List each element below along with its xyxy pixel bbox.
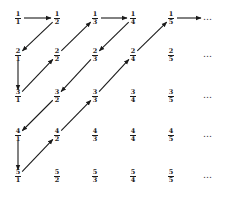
denominator: 4 bbox=[128, 19, 138, 25]
numerator: 5 bbox=[128, 169, 138, 175]
denominator: 1 bbox=[13, 56, 23, 62]
path-arrow bbox=[61, 100, 91, 130]
fraction-1-1: 11 bbox=[13, 11, 23, 25]
path-arrow bbox=[22, 100, 53, 131]
path-arrow bbox=[137, 22, 166, 51]
path-arrow bbox=[61, 22, 90, 51]
ellipsis-row-1: … bbox=[203, 12, 213, 22]
numerator: 3 bbox=[166, 89, 176, 95]
fraction-4-2: 42 bbox=[52, 128, 62, 142]
denominator: 5 bbox=[166, 97, 176, 103]
denominator: 4 bbox=[128, 136, 138, 142]
denominator: 5 bbox=[166, 136, 176, 142]
denominator: 3 bbox=[90, 97, 100, 103]
numerator: 2 bbox=[90, 48, 100, 54]
fraction-5-4: 54 bbox=[128, 169, 138, 183]
fraction-2-5: 25 bbox=[166, 48, 176, 62]
fraction-5-3: 53 bbox=[90, 169, 100, 183]
fraction-2-4: 24 bbox=[128, 48, 138, 62]
path-arrow bbox=[99, 59, 129, 91]
fraction-1-5: 15 bbox=[166, 11, 176, 25]
numerator: 2 bbox=[166, 48, 176, 54]
denominator: 2 bbox=[52, 136, 62, 142]
numerator: 5 bbox=[90, 169, 100, 175]
numerator: 1 bbox=[52, 11, 62, 17]
numerator: 3 bbox=[128, 89, 138, 95]
fraction-4-3: 43 bbox=[90, 128, 100, 142]
denominator: 4 bbox=[128, 56, 138, 62]
denominator: 3 bbox=[90, 136, 100, 142]
denominator: 3 bbox=[90, 177, 100, 183]
fraction-1-3: 13 bbox=[90, 11, 100, 25]
fraction-5-1: 51 bbox=[13, 169, 23, 183]
fraction-4-5: 45 bbox=[166, 128, 176, 142]
denominator: 5 bbox=[166, 177, 176, 183]
denominator: 4 bbox=[128, 177, 138, 183]
denominator: 1 bbox=[13, 97, 23, 103]
fraction-3-3: 33 bbox=[90, 89, 100, 103]
numerator: 2 bbox=[13, 48, 23, 54]
numerator: 1 bbox=[90, 11, 100, 17]
enumeration-path-arrows bbox=[0, 0, 230, 213]
ellipsis-row-5: … bbox=[203, 170, 213, 180]
numerator: 4 bbox=[52, 128, 62, 134]
numerator: 3 bbox=[13, 89, 23, 95]
fraction-4-1: 41 bbox=[13, 128, 23, 142]
path-arrow bbox=[99, 22, 128, 51]
ellipsis-row-2: … bbox=[203, 49, 213, 59]
path-arrow bbox=[22, 22, 52, 51]
ellipsis-row-3: … bbox=[203, 90, 213, 100]
numerator: 4 bbox=[166, 128, 176, 134]
denominator: 2 bbox=[52, 56, 62, 62]
fraction-1-2: 12 bbox=[52, 11, 62, 25]
numerator: 5 bbox=[52, 169, 62, 175]
numerator: 5 bbox=[166, 169, 176, 175]
numerator: 1 bbox=[13, 11, 23, 17]
denominator: 4 bbox=[128, 97, 138, 103]
numerator: 3 bbox=[90, 89, 100, 95]
denominator: 2 bbox=[52, 177, 62, 183]
fraction-2-3: 23 bbox=[90, 48, 100, 62]
denominator: 1 bbox=[13, 19, 23, 25]
path-arrow bbox=[22, 59, 53, 91]
fraction-3-4: 34 bbox=[128, 89, 138, 103]
fraction-3-1: 31 bbox=[13, 89, 23, 103]
fraction-3-5: 35 bbox=[166, 89, 176, 103]
fraction-2-2: 22 bbox=[52, 48, 62, 62]
denominator: 3 bbox=[90, 56, 100, 62]
fraction-1-4: 14 bbox=[128, 11, 138, 25]
numerator: 1 bbox=[166, 11, 176, 17]
denominator: 3 bbox=[90, 19, 100, 25]
numerator: 4 bbox=[13, 128, 23, 134]
fraction-2-1: 21 bbox=[13, 48, 23, 62]
denominator: 5 bbox=[166, 19, 176, 25]
denominator: 2 bbox=[52, 19, 62, 25]
fraction-3-2: 32 bbox=[52, 89, 62, 103]
numerator: 2 bbox=[128, 48, 138, 54]
path-arrow bbox=[22, 139, 53, 171]
denominator: 2 bbox=[52, 97, 62, 103]
numerator: 2 bbox=[52, 48, 62, 54]
denominator: 1 bbox=[13, 177, 23, 183]
numerator: 4 bbox=[128, 128, 138, 134]
path-arrow bbox=[61, 59, 91, 91]
numerator: 4 bbox=[90, 128, 100, 134]
denominator: 1 bbox=[13, 136, 23, 142]
numerator: 1 bbox=[128, 11, 138, 17]
fraction-5-2: 52 bbox=[52, 169, 62, 183]
fraction-4-4: 44 bbox=[128, 128, 138, 142]
fraction-5-5: 55 bbox=[166, 169, 176, 183]
numerator: 5 bbox=[13, 169, 23, 175]
denominator: 5 bbox=[166, 56, 176, 62]
numerator: 3 bbox=[52, 89, 62, 95]
ellipsis-row-4: … bbox=[203, 129, 213, 139]
